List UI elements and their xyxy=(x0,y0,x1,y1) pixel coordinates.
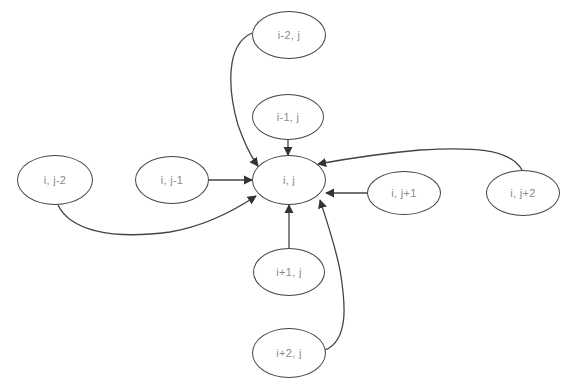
node-label: i, j-2 xyxy=(44,174,67,186)
edge-arrow-n_im2-to-n_ij xyxy=(231,33,258,166)
node-label: i+2, j xyxy=(276,347,301,359)
node-label: i-2, j xyxy=(278,29,301,41)
node-label: i, j xyxy=(283,174,295,186)
node-i-plus-2-j[interactable]: i+2, j xyxy=(252,328,326,378)
node-label: i+1, j xyxy=(276,266,301,278)
node-i-minus-2-j[interactable]: i-2, j xyxy=(252,11,326,59)
node-i-j-minus-2[interactable]: i, j-2 xyxy=(17,155,93,205)
node-label: i, j-1 xyxy=(161,174,184,186)
node-i-j-center[interactable]: i, j xyxy=(252,155,326,205)
node-label: i, j+2 xyxy=(510,187,535,199)
node-i-j-plus-1[interactable]: i, j+1 xyxy=(367,171,441,215)
node-label: i-1, j xyxy=(277,111,300,123)
edge-arrow-n_jp2-to-n_ij xyxy=(318,149,522,170)
node-label: i, j+1 xyxy=(391,187,416,199)
node-i-j-minus-1[interactable]: i, j-1 xyxy=(135,156,209,204)
node-i-minus-1-j[interactable]: i-1, j xyxy=(252,94,324,140)
node-i-plus-1-j[interactable]: i+1, j xyxy=(253,248,325,296)
node-i-j-plus-2[interactable]: i, j+2 xyxy=(486,170,560,216)
